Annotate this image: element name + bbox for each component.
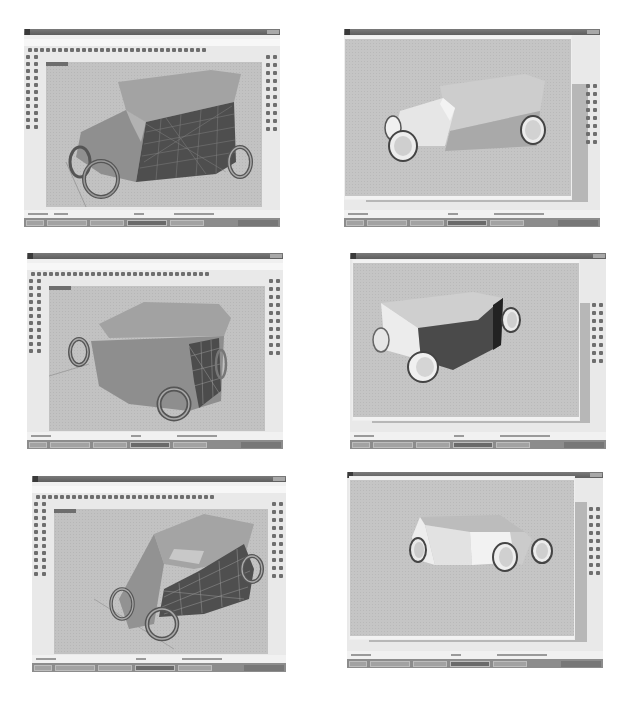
tool-icon[interactable]	[42, 495, 46, 499]
tool-icon[interactable]	[60, 495, 64, 499]
tool-icon[interactable]	[139, 272, 143, 276]
tool-icon[interactable]	[26, 55, 30, 59]
tool-icon[interactable]	[34, 572, 38, 576]
tool-icon[interactable]	[37, 321, 41, 325]
taskbar-item[interactable]	[416, 442, 450, 448]
tool-icon[interactable]	[272, 510, 276, 514]
tool-icon[interactable]	[156, 495, 160, 499]
tool-icon[interactable]	[272, 518, 276, 522]
tool-icon[interactable]	[599, 303, 603, 307]
tool-icon[interactable]	[276, 327, 280, 331]
main-toolbar[interactable]	[31, 271, 269, 277]
tool-icon[interactable]	[42, 523, 46, 527]
tool-icon[interactable]	[599, 327, 603, 331]
tool-icon[interactable]	[592, 311, 596, 315]
tool-icon[interactable]	[43, 272, 47, 276]
main-toolbar[interactable]	[36, 494, 272, 500]
taskbar-item[interactable]	[370, 661, 410, 667]
tool-icon[interactable]	[592, 343, 596, 347]
tool-icon[interactable]	[118, 48, 122, 52]
tool-icon[interactable]	[34, 523, 38, 527]
start-button[interactable]	[34, 665, 52, 671]
taskbar-item[interactable]	[178, 665, 212, 671]
window-controls[interactable]	[590, 473, 602, 477]
tool-icon[interactable]	[162, 495, 166, 499]
tool-icon[interactable]	[29, 286, 33, 290]
tool-icon[interactable]	[586, 124, 590, 128]
tool-icon[interactable]	[198, 495, 202, 499]
tool-icon[interactable]	[273, 127, 277, 131]
tool-icon[interactable]	[79, 272, 83, 276]
tool-icon[interactable]	[36, 495, 40, 499]
right-toolbar[interactable]	[589, 507, 601, 650]
command-area[interactable]	[32, 486, 286, 493]
tool-icon[interactable]	[26, 111, 30, 115]
tool-icon[interactable]	[599, 319, 603, 323]
tool-icon[interactable]	[593, 140, 597, 144]
tool-icon[interactable]	[54, 495, 58, 499]
taskbar-item[interactable]	[93, 442, 127, 448]
tool-icon[interactable]	[42, 572, 46, 576]
tool-icon[interactable]	[84, 495, 88, 499]
taskbar-item-active[interactable]	[127, 220, 167, 226]
tool-icon[interactable]	[29, 279, 33, 283]
tool-icon[interactable]	[29, 321, 33, 325]
tool-icon[interactable]	[269, 343, 273, 347]
tool-icon[interactable]	[46, 48, 50, 52]
taskbar-item-active[interactable]	[130, 442, 170, 448]
tool-icon[interactable]	[279, 518, 283, 522]
taskbar-item[interactable]	[490, 220, 524, 226]
tool-icon[interactable]	[34, 544, 38, 548]
tool-icon[interactable]	[266, 95, 270, 99]
tool-icon[interactable]	[272, 574, 276, 578]
tool-icon[interactable]	[596, 507, 600, 511]
right-toolbar[interactable]	[586, 84, 598, 209]
tool-icon[interactable]	[26, 69, 30, 73]
taskbar-item[interactable]	[373, 442, 413, 448]
taskbar-item[interactable]	[496, 442, 530, 448]
tool-icon[interactable]	[34, 111, 38, 115]
tool-icon[interactable]	[276, 303, 280, 307]
taskbar-item-active[interactable]	[135, 665, 175, 671]
tool-icon[interactable]	[34, 83, 38, 87]
tool-icon[interactable]	[154, 48, 158, 52]
tool-icon[interactable]	[163, 272, 167, 276]
taskbar-item[interactable]	[90, 220, 124, 226]
tool-icon[interactable]	[34, 90, 38, 94]
tool-icon[interactable]	[29, 293, 33, 297]
right-toolbar[interactable]	[592, 303, 604, 431]
start-button[interactable]	[26, 220, 44, 226]
tool-icon[interactable]	[276, 335, 280, 339]
tool-icon[interactable]	[108, 495, 112, 499]
tool-icon[interactable]	[94, 48, 98, 52]
tool-icon[interactable]	[175, 272, 179, 276]
tool-icon[interactable]	[599, 351, 603, 355]
tool-icon[interactable]	[34, 69, 38, 73]
tool-icon[interactable]	[192, 495, 196, 499]
tool-icon[interactable]	[151, 272, 155, 276]
window-controls[interactable]	[273, 477, 285, 481]
tool-icon[interactable]	[97, 272, 101, 276]
tool-icon[interactable]	[276, 319, 280, 323]
tool-icon[interactable]	[78, 495, 82, 499]
tool-icon[interactable]	[103, 272, 107, 276]
tool-icon[interactable]	[586, 100, 590, 104]
tool-icon[interactable]	[266, 127, 270, 131]
tool-icon[interactable]	[28, 48, 32, 52]
right-toolbar[interactable]	[272, 502, 284, 654]
tool-icon[interactable]	[124, 48, 128, 52]
tool-icon[interactable]	[276, 351, 280, 355]
tool-icon[interactable]	[279, 534, 283, 538]
tool-icon[interactable]	[106, 48, 110, 52]
tool-icon[interactable]	[42, 565, 46, 569]
tool-icon[interactable]	[34, 509, 38, 513]
tool-icon[interactable]	[66, 495, 70, 499]
tool-icon[interactable]	[596, 531, 600, 535]
start-button[interactable]	[352, 442, 370, 448]
tool-icon[interactable]	[269, 303, 273, 307]
tool-icon[interactable]	[184, 48, 188, 52]
tool-icon[interactable]	[592, 303, 596, 307]
tool-icon[interactable]	[42, 530, 46, 534]
tool-icon[interactable]	[34, 125, 38, 129]
taskbar-item-active[interactable]	[450, 661, 490, 667]
